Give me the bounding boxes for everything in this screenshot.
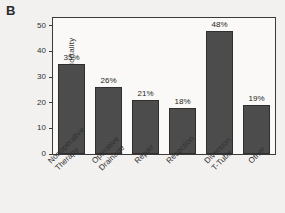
bar-slot: 26% <box>90 18 127 154</box>
bar[interactable]: 48% <box>206 31 233 154</box>
bar-slot: 48% <box>201 18 238 154</box>
bar-value-label: 18% <box>174 97 190 106</box>
x-label-slot: Repair <box>127 157 164 213</box>
bar-value-label: 19% <box>248 94 264 103</box>
bar-value-label: 21% <box>137 89 153 98</box>
figure-panel-b: B % Mortality 01020304050 35%26%21%18%48… <box>0 0 285 213</box>
bar[interactable]: 19% <box>243 105 270 154</box>
y-tick-label: 0 <box>26 149 46 158</box>
y-tick-label: 50 <box>26 21 46 30</box>
panel-label: B <box>6 3 16 18</box>
y-tick-label: 30 <box>26 72 46 81</box>
x-label-slot: NonoperativeTherapy <box>52 157 89 213</box>
y-tick-label: 10 <box>26 123 46 132</box>
bar-slot: 19% <box>238 18 275 154</box>
bar-slot: 18% <box>164 18 201 154</box>
x-label-slot: Other <box>239 157 276 213</box>
bar-slot: 21% <box>127 18 164 154</box>
bar-value-label: 48% <box>211 20 227 29</box>
x-label-slot: OperativeDrainage <box>89 157 126 213</box>
x-label-slot: DiversionT-Tube <box>201 157 238 213</box>
x-axis-labels: NonoperativeTherapyOperativeDrainageRepa… <box>52 157 276 213</box>
bar-value-label: 35% <box>63 53 79 62</box>
bar-value-label: 26% <box>100 76 116 85</box>
x-label-slot: Resection <box>164 157 201 213</box>
y-tick-label: 40 <box>26 46 46 55</box>
y-tick-label: 20 <box>26 98 46 107</box>
